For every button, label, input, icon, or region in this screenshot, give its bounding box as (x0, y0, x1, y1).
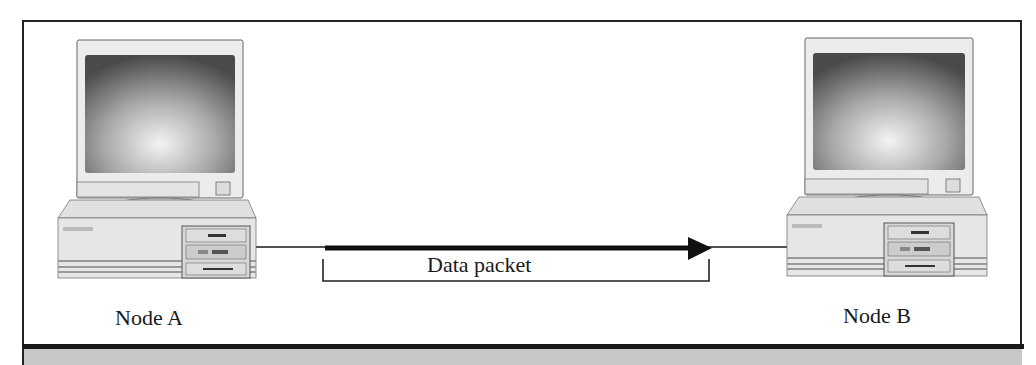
packet-label: Data packet (427, 252, 531, 278)
node-a-label: Node A (115, 305, 183, 331)
caption-band (24, 349, 1022, 365)
desktop-computer-icon (787, 38, 987, 276)
node-b-label: Node B (843, 303, 911, 329)
desktop-computer-icon (58, 40, 256, 278)
